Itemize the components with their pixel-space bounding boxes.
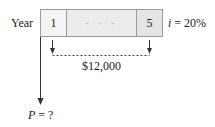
present-value-label: P = ?	[28, 108, 53, 123]
annuity-amount-label: $12,000	[82, 59, 121, 74]
present-value-equals: = ?	[38, 108, 53, 122]
present-value-arrow-icon	[38, 37, 44, 105]
present-value-symbol: P	[28, 108, 35, 122]
annuity-arrow-year-5-icon	[147, 40, 152, 54]
annuity-arrow-year-1-icon	[50, 40, 55, 54]
